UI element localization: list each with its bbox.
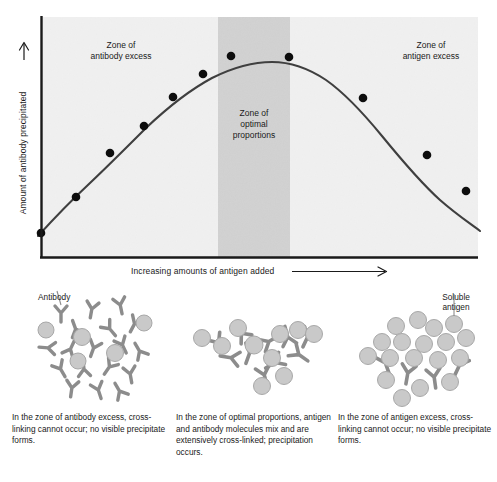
caption-antigen-excess: In the zone of antigen excess, cross-lin… xyxy=(338,412,496,447)
data-point xyxy=(462,187,471,196)
caption-antibody-excess: In the zone of antibody excess, cross-li… xyxy=(12,412,170,447)
data-point xyxy=(169,93,178,102)
callout-label-antibody: Antibody xyxy=(38,292,70,302)
diagram-optimal-proportions xyxy=(176,290,336,410)
data-point xyxy=(199,70,208,79)
data-point xyxy=(72,193,81,202)
explanatory-panels: Antibody In the zone of antibody excess,… xyxy=(0,290,497,482)
x-axis-arrow-icon xyxy=(292,267,387,276)
data-point xyxy=(423,151,432,160)
antibody-glyphs xyxy=(39,297,149,400)
diagram-antibody-excess xyxy=(12,290,172,410)
precipitin-curve-chart: Amount of antibody precipitated Increasi… xyxy=(0,0,497,290)
panel-antibody-excess: Antibody In the zone of antibody excess,… xyxy=(12,290,172,482)
zone-label-antigen-excess: Zone of antigen excess xyxy=(372,40,490,62)
data-point xyxy=(140,122,149,131)
data-point xyxy=(106,149,115,158)
y-axis-title: Amount of antibody precipitated xyxy=(18,53,28,253)
caption-optimal-proportions: In the zone of optimal proportions, anti… xyxy=(176,412,334,458)
data-point xyxy=(227,52,236,61)
data-point xyxy=(359,94,368,103)
zone-label-antibody-excess: Zone of antibody excess xyxy=(62,40,180,62)
callout-label-soluble-antigen: Soluble antigen xyxy=(426,292,486,312)
panel-antigen-excess: Soluble antigen In the zone of antigen e… xyxy=(338,290,497,482)
zone-label-optimal-proportions: Zone of optimal proportions xyxy=(214,108,294,141)
panel-optimal-proportions: In the zone of optimal proportions, anti… xyxy=(176,290,336,482)
x-axis-title: Increasing amounts of antigen added xyxy=(131,266,274,276)
data-point xyxy=(285,53,294,62)
